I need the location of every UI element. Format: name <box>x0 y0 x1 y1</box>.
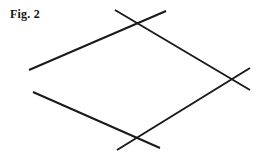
lower-left-side <box>33 92 160 148</box>
upper-right-side <box>115 10 250 90</box>
figure-page: Fig. 2 <box>0 0 268 157</box>
line-segment-group <box>29 10 250 150</box>
rhombus-line-drawing <box>0 0 268 157</box>
upper-left-side <box>29 11 166 70</box>
